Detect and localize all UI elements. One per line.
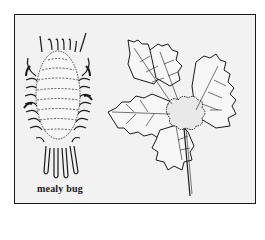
- leaf-cluster-icon: [108, 40, 236, 196]
- mealy-bug-icon: [24, 33, 92, 178]
- illustration-caption: mealy bug: [37, 183, 83, 194]
